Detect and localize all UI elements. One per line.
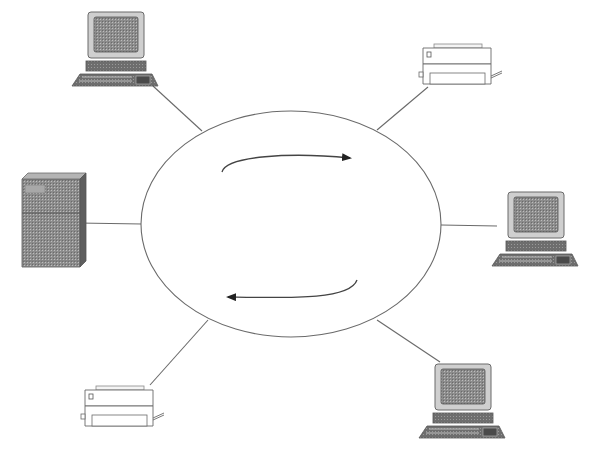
- workstation-icon: [492, 192, 578, 266]
- printer-icon: [81, 386, 164, 426]
- link-pc-bottom-right: [377, 320, 440, 362]
- ring-backbone: [141, 111, 441, 337]
- workstation-icon: [72, 12, 158, 86]
- workstation-icon: [419, 364, 505, 438]
- link-server-left: [78, 223, 142, 224]
- link-pc-top-left: [153, 86, 202, 131]
- server-icon: [22, 173, 86, 267]
- ring-network-diagram: [0, 0, 597, 455]
- link-printer-bottom-left: [150, 320, 208, 385]
- link-pc-right: [441, 225, 497, 226]
- printer-icon: [419, 44, 502, 84]
- link-printer-top-right: [377, 87, 428, 130]
